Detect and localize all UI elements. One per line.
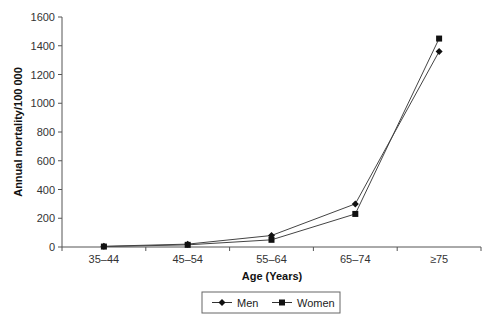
- series-lines: [100, 36, 442, 250]
- y-tick-label: 0: [49, 241, 55, 253]
- square-marker-icon: [185, 242, 191, 248]
- legend: Men Women: [202, 292, 340, 313]
- y-tick-label: 1400: [31, 40, 55, 52]
- x-tick-label: 55–64: [256, 253, 287, 265]
- square-marker-icon: [279, 300, 285, 306]
- y-tick-label: 600: [37, 155, 55, 167]
- diamond-marker-icon: [436, 48, 443, 55]
- y-tick-label: 400: [37, 184, 55, 196]
- line-chart: 02004006008001000120014001600 35–4445–54…: [0, 0, 491, 325]
- series-women: [101, 36, 442, 250]
- y-tick-label: 200: [37, 212, 55, 224]
- y-tick-label: 800: [37, 126, 55, 138]
- y-tick-label: 1200: [31, 69, 55, 81]
- x-axis-title: Age (Years): [242, 270, 303, 282]
- x-tick-label: 65–74: [340, 253, 371, 265]
- x-tick-label: 35–44: [89, 253, 120, 265]
- legend-label-men: Men: [237, 297, 258, 309]
- y-axis-title: Annual mortality/100 000: [12, 67, 24, 197]
- square-marker-icon: [101, 244, 107, 250]
- y-tick-label: 1600: [31, 11, 55, 23]
- square-marker-icon: [352, 211, 358, 217]
- x-axis: 35–4445–5455–6465–74≥75: [62, 247, 481, 265]
- x-tick-label: ≥75: [430, 253, 448, 265]
- x-tick-label: 45–54: [172, 253, 203, 265]
- series-men: [100, 48, 442, 250]
- square-marker-icon: [269, 237, 275, 243]
- diamond-marker-icon: [352, 200, 359, 207]
- square-marker-icon: [436, 36, 442, 42]
- y-axis: 02004006008001000120014001600: [31, 11, 62, 253]
- y-tick-label: 1000: [31, 97, 55, 109]
- legend-label-women: Women: [297, 297, 335, 309]
